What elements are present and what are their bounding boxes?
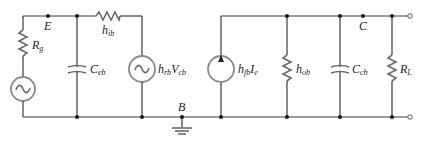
ground-symbol-icon [172, 117, 192, 134]
label-hfb-ie: hfbIe [238, 62, 258, 77]
capacitor-ccb [331, 16, 349, 117]
load-resistor-rl [388, 16, 396, 117]
forward-current-source-icon [208, 16, 234, 117]
input-ac-source-icon [11, 77, 35, 117]
node-label-b: B [178, 100, 185, 115]
node-label-c: C [359, 19, 367, 34]
label-hib: hib [102, 23, 114, 38]
label-rl: RL [400, 62, 412, 77]
input-impedance-hib [96, 12, 120, 20]
source-resistor-rg [19, 16, 27, 76]
output-admittance-hob [283, 16, 291, 117]
reverse-voltage-source-icon [129, 16, 155, 117]
node-label-e: E [44, 19, 51, 34]
label-ccb: Ccb [352, 62, 368, 77]
label-hrb-vcb: hrbVcb [158, 62, 186, 77]
circuit-diagram: E B C Rg hib Ceb hrbVcb hfbIe hob Ccb RL [0, 0, 424, 144]
label-hob: hob [296, 62, 310, 77]
label-rg: Rg [32, 38, 43, 53]
label-ceb: Ceb [90, 62, 106, 77]
capacitor-ceb [68, 16, 86, 117]
